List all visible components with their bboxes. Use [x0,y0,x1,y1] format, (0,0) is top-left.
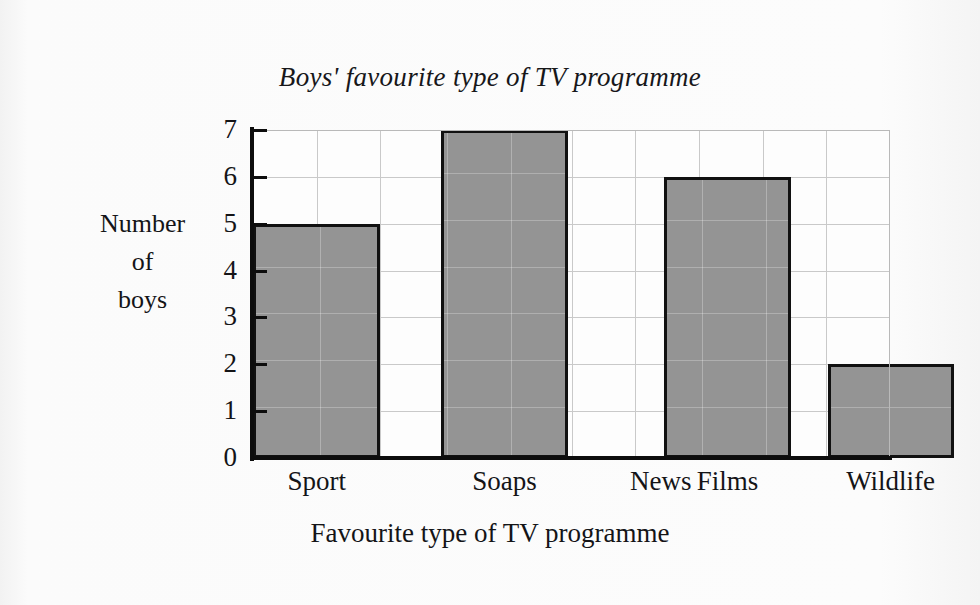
gridline-vertical [572,130,573,458]
bar-gridline-horizontal [667,220,788,221]
gridline-horizontal [253,130,890,131]
bar-gridline-horizontal [444,220,565,221]
bar-gridline-horizontal [444,267,565,268]
bar-gridline-vertical [766,180,767,455]
y-axis-tick [254,129,267,132]
y-axis-tick-label: 6 [197,163,237,190]
bar-gridline-horizontal [256,407,377,408]
bar-gridline-horizontal [667,407,788,408]
gridline-vertical [635,130,636,458]
bar-gridline-horizontal [667,360,788,361]
bar-gridline-horizontal [831,407,951,408]
y-axis-tick [254,316,267,319]
y-axis-tick-label: 1 [197,397,237,424]
bar-gridline-horizontal [256,360,377,361]
x-axis-line [250,456,892,460]
y-axis-tick-label: 3 [197,303,237,330]
gridline-vertical [380,130,381,458]
bar-soaps [441,130,568,458]
chart-title: Boys' favourite type of TV programme [0,62,980,93]
bar-wildlife [828,364,954,458]
bar-gridline-horizontal [444,313,565,314]
bar-gridline-horizontal [256,267,377,268]
x-axis-tick-label-wildlife: Wildlife [811,466,971,497]
y-axis-tick-label: 0 [197,444,237,471]
bar-gridline-horizontal [444,360,565,361]
y-axis-tick-label: 2 [197,350,237,377]
y-axis-tick [254,457,267,460]
bar-gridline-horizontal [667,267,788,268]
y-axis-tick [254,270,267,273]
x-axis-tick-label-films: Films [648,466,808,497]
bar-gridline-vertical [320,227,321,455]
x-axis-title: Favourite type of TV programme [0,518,980,549]
y-axis-tick-label: 5 [197,210,237,237]
y-axis-tick-label: 4 [197,257,237,284]
bar-gridline-vertical [702,180,703,455]
chart-figure: Boys' favourite type of TV programme Num… [0,0,980,605]
x-axis-tick-label-soaps: Soaps [425,466,585,497]
y-axis-tick [254,363,267,366]
bar-sport [253,224,380,458]
plot-area [253,130,890,458]
bar-gridline-horizontal [444,407,565,408]
bar-films [664,177,791,458]
bar-gridline-horizontal [256,313,377,314]
bar-gridline-horizontal [444,173,565,174]
y-axis-tick [254,223,267,226]
y-axis-tick-label: 7 [197,116,237,143]
y-axis-tick [254,176,267,179]
y-axis-tick [254,410,267,413]
gridline-horizontal [253,177,890,178]
x-axis-tick-label-sport: Sport [237,466,397,497]
bar-gridline-horizontal [667,313,788,314]
